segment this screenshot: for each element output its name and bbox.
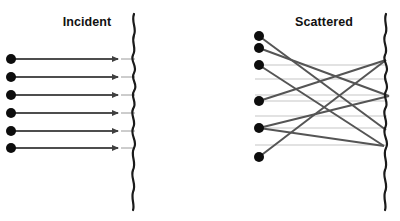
incident-source-dot [6, 108, 16, 118]
incident-source-dot [6, 143, 16, 153]
incident-source-dot [6, 126, 16, 136]
scattered-source-dot [254, 43, 264, 53]
diagram-canvas: Incident [0, 0, 400, 221]
scattered-source-dot [254, 31, 264, 41]
incident-source-dot [6, 90, 16, 100]
figure-background [0, 0, 400, 221]
scattered-source-dot [254, 152, 264, 162]
incident-source-dot [6, 72, 16, 82]
incident-panel-title: Incident [63, 15, 112, 29]
scattered-source-dot [254, 123, 264, 133]
scattered-panel-title: Scattered [295, 15, 353, 29]
scattered-source-dot [254, 96, 264, 106]
incident-source-dot [6, 54, 16, 64]
scattering-diagram: Incident [0, 0, 400, 221]
scattered-source-dot [254, 60, 264, 70]
